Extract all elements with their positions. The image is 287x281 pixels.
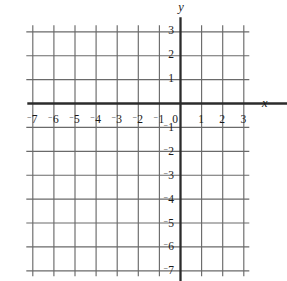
axis-lines — [0, 0, 287, 281]
coordinate-plane: x y 0 −7−6−5−4−3−2−1123321−1−2−3−4−5−6−7 — [0, 0, 287, 281]
